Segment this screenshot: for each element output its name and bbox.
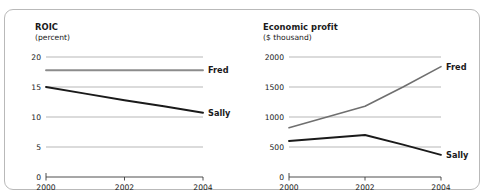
series-label-sally: Sally: [208, 108, 231, 118]
x-axis-tick-label: 2000: [279, 183, 298, 191]
x-axis-tick-label: 2000: [36, 183, 55, 191]
x-axis-tick-label: 2002: [355, 183, 374, 191]
series-label-sally: Sally: [446, 150, 469, 160]
series-line-sally: [289, 135, 441, 155]
x-axis-tick-label: 2002: [115, 183, 134, 191]
y-axis-tick-label: 2000: [265, 53, 284, 62]
y-axis-tick-label: 0: [36, 173, 41, 182]
y-axis-tick-label: 1500: [265, 83, 284, 92]
y-axis-tick-label: 500: [270, 143, 285, 152]
series-line-fred: [289, 67, 441, 128]
series-line-sally: [46, 87, 203, 113]
y-axis-tick-label: 20: [31, 53, 41, 62]
x-axis-tick-label: 2004: [431, 183, 450, 191]
y-axis-tick-label: 5: [36, 143, 41, 152]
chart-panel-economic-profit: Economic profit ($ thousand) 20001500100…: [241, 10, 479, 189]
series-label-fred: Fred: [208, 65, 229, 75]
chart-figure-frame: ROIC (percent) 20151050200020022004FredS…: [4, 9, 480, 190]
y-axis-tick-label: 1000: [265, 113, 284, 122]
roic-plot-area: 20151050200020022004FredSally: [5, 10, 243, 191]
series-label-fred: Fred: [446, 62, 467, 72]
x-axis-tick-label: 2004: [193, 183, 212, 191]
chart-panel-roic: ROIC (percent) 20151050200020022004FredS…: [5, 10, 243, 189]
y-axis-tick-label: 0: [279, 173, 284, 182]
y-axis-tick-label: 10: [31, 113, 41, 122]
y-axis-tick-label: 15: [31, 83, 41, 92]
economic-profit-plot-area: 2000150010005000200020022004FredSally: [241, 10, 481, 191]
